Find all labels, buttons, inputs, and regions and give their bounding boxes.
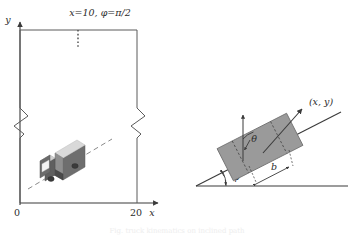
break-mark-right-icon [131, 108, 145, 138]
x-tick-origin-label: 0 [14, 207, 20, 218]
figure-root: 0 20 x y x=10, φ=π/2 φ [0, 0, 354, 236]
position-coordinate-label: (x, y) [309, 96, 333, 107]
left-panel-group: 0 20 x y x=10, φ=π/2 [4, 7, 158, 218]
x-tick-right-label: 20 [130, 207, 142, 218]
truck-illustration [40, 140, 85, 181]
truck-front-wheel [48, 177, 54, 182]
vehicle-body-group [217, 113, 303, 180]
figure-caption-faint: Fig. truck kinematics on inclined path [0, 226, 354, 236]
x-axis-label: x [149, 207, 155, 218]
dimension-b-label: b [271, 161, 277, 172]
truck-rear-wheel [72, 164, 78, 169]
theta-angle-label: θ [251, 133, 257, 144]
right-panel-group: φ b θ [196, 96, 348, 186]
vehicle-body-rect [217, 113, 303, 180]
y-axis-label: y [4, 14, 11, 25]
diagram-canvas: 0 20 x y x=10, φ=π/2 φ [0, 0, 354, 236]
break-mark-left-icon [14, 108, 28, 138]
top-condition-label: x=10, φ=π/2 [69, 7, 131, 18]
